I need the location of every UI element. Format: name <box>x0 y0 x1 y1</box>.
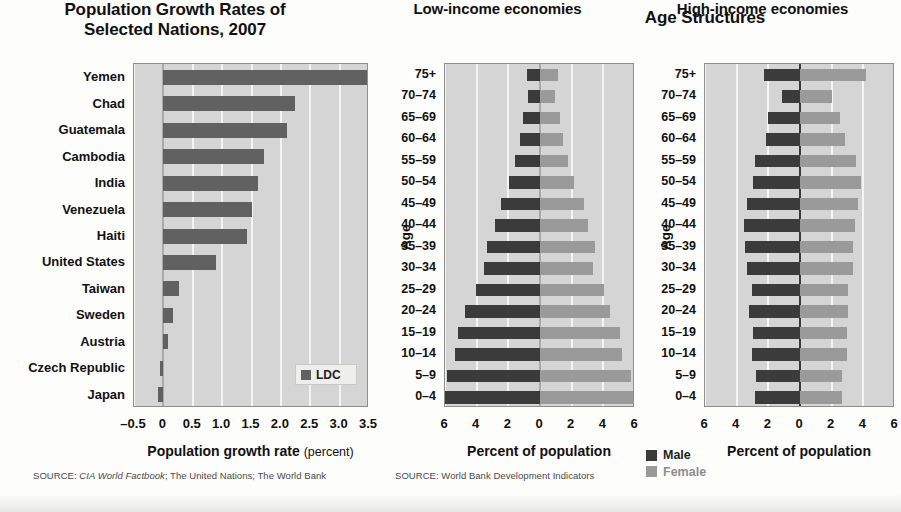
pyramid-age-label: 40–44 <box>650 218 696 231</box>
pyramid-bar-male <box>755 391 800 404</box>
pyramid-bar-female <box>540 262 593 275</box>
pyramid-age-label: 55–59 <box>650 154 696 167</box>
pyramid-bar-female <box>800 305 848 318</box>
legend-row-male[interactable]: Male <box>646 449 706 462</box>
chart1-category-label: India <box>0 176 125 189</box>
pyramid-bar-female <box>540 198 584 211</box>
pyramid-age-label: 30–34 <box>650 261 696 274</box>
pyramid-bar-male <box>756 370 800 383</box>
pyramid-legend[interactable]: Male Female <box>646 449 706 482</box>
pyramid-age-label: 75+ <box>650 68 696 81</box>
pyramid-bar-male <box>747 262 800 275</box>
pyramid-age-label: 60–64 <box>650 132 696 145</box>
male-legend-label: Male <box>663 449 691 462</box>
pyramid-age-label: 50–54 <box>650 175 696 188</box>
pyramid-bar-male <box>444 391 540 404</box>
pyramid-bar-female <box>540 305 610 318</box>
chart1-xaxis-unit: (percent) <box>304 445 354 459</box>
pyramid-bar-female <box>540 133 563 146</box>
pyramid-age-label: 35–39 <box>390 240 436 253</box>
chart1-category-label: Sweden <box>0 308 125 321</box>
pyramid-bar-female <box>540 90 555 103</box>
pyramid-bar-female <box>800 327 847 340</box>
chart1-title: Population Growth Rates of Selected Nati… <box>0 0 350 39</box>
chart1-gridline <box>133 64 135 406</box>
pyramid-bar-male <box>458 327 540 340</box>
pyramid-xtick: 6 <box>874 417 901 430</box>
pyramid-xtick: 6 <box>614 417 654 430</box>
pyramid-bar-male <box>752 348 800 361</box>
pyramid-age-label: 15–19 <box>650 326 696 339</box>
figure-page: Population Growth Rates of Selected Nati… <box>0 0 901 512</box>
ldc-legend-label: LDC <box>316 369 341 381</box>
chart1-category-label: Haiti <box>0 229 125 242</box>
chart1-bar <box>163 96 295 111</box>
ldc-legend-swatch <box>301 370 311 380</box>
pyramid-age-label: 15–19 <box>390 326 436 339</box>
pyramid-bar-female <box>800 348 847 361</box>
pyramid-bar-female <box>800 391 842 404</box>
pyramid-age-label: 35–39 <box>650 240 696 253</box>
pyramid-bar-female <box>540 69 558 82</box>
pyramid-bar-male <box>753 176 800 189</box>
chart1-plot-area <box>133 63 368 407</box>
pyramid-bar-male <box>745 241 800 254</box>
pyramid-bar-male <box>527 69 540 82</box>
pyramid-age-label: 10–14 <box>390 347 436 360</box>
pyramid-bar-female <box>800 90 832 103</box>
chart1-bar <box>163 202 251 217</box>
pyramid-bar-male <box>455 348 540 361</box>
chart2-plot-area <box>444 63 634 407</box>
chart1-bar <box>163 255 215 270</box>
chart2-yaxis-title: Age <box>398 224 413 250</box>
pyramid-bar-male <box>476 284 540 297</box>
pyramid-bar-female <box>800 176 861 189</box>
chart1-category-label: Venezuela <box>0 203 125 216</box>
chart1-legend[interactable]: LDC <box>295 364 357 385</box>
chart3-title: High-income economies <box>650 0 875 17</box>
pyramid-bar-male <box>752 284 800 297</box>
pyramid-bar-female <box>540 241 595 254</box>
pyramid-bar-female <box>540 391 634 404</box>
pyramid-age-label: 0–4 <box>390 390 436 403</box>
pyramid-age-label: 60–64 <box>390 132 436 145</box>
pyramid-age-label: 75+ <box>390 68 436 81</box>
pyramid-bar-female <box>540 176 574 189</box>
chart1-gridline <box>309 64 311 406</box>
pyramid-bar-female <box>540 219 588 232</box>
pyramid-bar-male <box>465 305 540 318</box>
pyramid-bar-female <box>800 370 842 383</box>
pyramid-bar-male <box>484 262 540 275</box>
pyramid-bar-male <box>747 198 800 211</box>
chart1-category-label: Austria <box>0 335 125 348</box>
pyramid-bar-male <box>447 370 540 383</box>
chart1-category-label: Chad <box>0 97 125 110</box>
pyramid-age-label: 20–24 <box>390 304 436 317</box>
pyramid-bar-female <box>800 241 853 254</box>
pyramid-age-label: 65–69 <box>390 111 436 124</box>
chart1-bar <box>163 70 366 85</box>
pyramid-gridline <box>736 64 738 406</box>
chart-high-income-pyramid: High-income economies 75+70–7465–6960–64… <box>650 0 901 512</box>
female-legend-label: Female <box>663 466 706 479</box>
page-bottom-shading <box>0 494 901 512</box>
pyramid-gridline <box>862 64 864 406</box>
pyramid-bar-female <box>540 284 604 297</box>
pyramid-bar-female <box>800 284 848 297</box>
pyramid-bar-male <box>744 219 800 232</box>
chart-low-income-pyramid: Low-income economies 75+70–7465–6960–645… <box>390 0 645 512</box>
female-legend-swatch <box>646 466 657 477</box>
pyramid-bar-male <box>749 305 800 318</box>
pyramid-bar-male <box>501 198 540 211</box>
legend-row-female[interactable]: Female <box>646 466 706 479</box>
pyramid-bar-male <box>515 155 540 168</box>
pyramid-bar-male <box>764 69 800 82</box>
chart1-bar <box>163 334 168 349</box>
pyramid-bar-female <box>540 370 631 383</box>
chart-population-growth: Population Growth Rates of Selected Nati… <box>0 0 380 512</box>
chart1-xaxis-title: Population growth rate (percent) <box>133 443 368 459</box>
pyramid-bar-male <box>768 112 800 125</box>
chart1-xtick: 3.5 <box>343 417 393 430</box>
pyramid-age-label: 45–49 <box>650 197 696 210</box>
pyramid-age-label: 0–4 <box>650 390 696 403</box>
